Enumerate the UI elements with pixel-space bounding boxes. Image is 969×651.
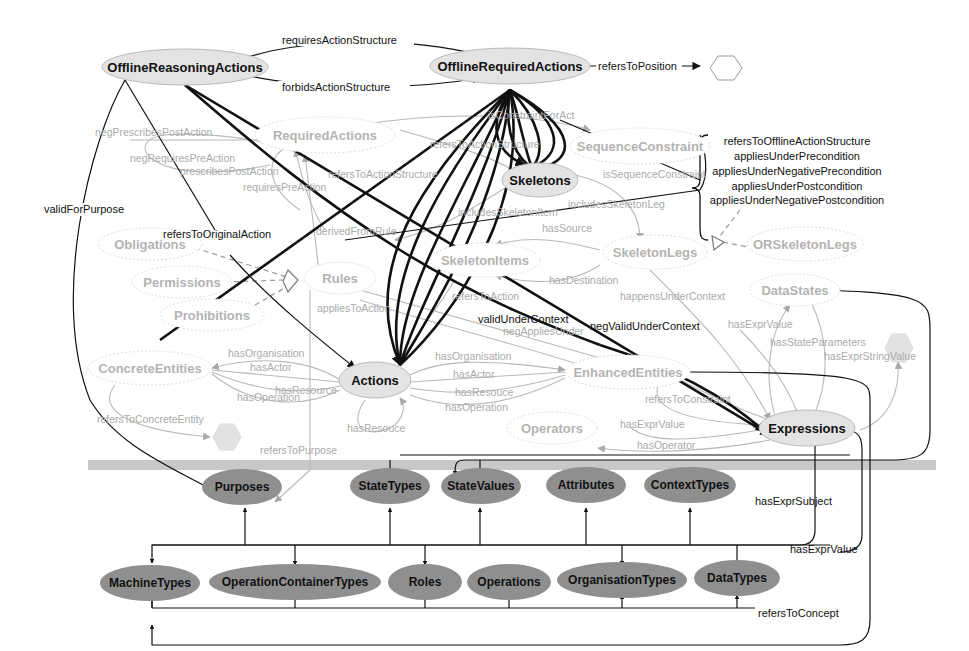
node-offline-required-actions[interactable]: OfflineRequiredActions bbox=[430, 48, 590, 84]
svg-text:OfflineRequiredActions: OfflineRequiredActions bbox=[437, 59, 582, 74]
label-refers-to-concept: refersToConcept bbox=[758, 607, 839, 619]
svg-text:appliesUnderNegativePostcondit: appliesUnderNegativePostcondition bbox=[710, 194, 884, 206]
node-purposes[interactable]: Purposes bbox=[202, 469, 282, 505]
svg-text:hasOperation: hasOperation bbox=[445, 401, 508, 413]
svg-text:refersToConstraint: refersToConstraint bbox=[645, 393, 731, 405]
node-permissions[interactable]: Permissions bbox=[132, 266, 232, 298]
node-data-states[interactable]: DataStates bbox=[750, 274, 840, 306]
svg-text:requiresPreAction: requiresPreAction bbox=[243, 181, 327, 193]
svg-text:negPrescribesPostAction: negPrescribesPostAction bbox=[95, 126, 212, 138]
svg-text:refersToOfflineActionStructure: refersToOfflineActionStructure bbox=[724, 135, 871, 147]
node-skeletons[interactable]: Skeletons bbox=[502, 163, 578, 197]
svg-text:Purposes: Purposes bbox=[215, 480, 270, 494]
node-state-types[interactable]: StateTypes bbox=[350, 468, 430, 504]
label-refers-to-position: refersToPosition bbox=[598, 60, 677, 72]
node-offline-reasoning-actions[interactable]: OfflineReasoningActions bbox=[102, 49, 268, 85]
svg-text:MachineTypes: MachineTypes bbox=[109, 576, 191, 590]
literal-hexagon bbox=[710, 56, 742, 80]
svg-text:hasOrganisation: hasOrganisation bbox=[228, 347, 305, 359]
ontology-diagram: OfflineReasoningActions OfflineRequiredA… bbox=[0, 0, 969, 651]
node-or-skeleton-legs[interactable]: ORSkeletonLegs bbox=[747, 227, 863, 261]
node-enhanced-entities[interactable]: EnhancedEntities bbox=[566, 355, 690, 389]
svg-text:hasExprValue: hasExprValue bbox=[620, 418, 685, 430]
svg-text:Roles: Roles bbox=[409, 575, 442, 589]
svg-text:StateTypes: StateTypes bbox=[358, 479, 421, 493]
node-prohibitions[interactable]: Prohibitions bbox=[160, 299, 264, 331]
node-sequence-constraint[interactable]: SequenceConstraint bbox=[570, 128, 710, 164]
node-actions[interactable]: Actions bbox=[339, 362, 411, 398]
svg-text:DataStates: DataStates bbox=[761, 283, 828, 298]
node-context-types[interactable]: ContextTypes bbox=[644, 467, 736, 503]
svg-text:hasResouce: hasResouce bbox=[455, 386, 514, 398]
svg-text:hasOperation: hasOperation bbox=[237, 391, 300, 403]
svg-text:OrganisationTypes: OrganisationTypes bbox=[568, 573, 676, 587]
svg-text:ConcreteEntities: ConcreteEntities bbox=[98, 361, 201, 376]
svg-text:Actions: Actions bbox=[351, 373, 399, 388]
svg-text:includesSkeletonLeg: includesSkeletonLeg bbox=[568, 198, 665, 210]
svg-text:Operations: Operations bbox=[477, 575, 541, 589]
node-required-actions[interactable]: RequiredActions bbox=[255, 117, 395, 153]
node-data-types[interactable]: DataTypes bbox=[694, 560, 780, 596]
label-neg-valid-under-context: negValidUnderContext bbox=[590, 320, 700, 332]
svg-text:Attributes: Attributes bbox=[558, 478, 615, 492]
svg-text:refersToPurpose: refersToPurpose bbox=[260, 444, 337, 456]
svg-text:includesSkeletonItem: includesSkeletonItem bbox=[458, 206, 558, 218]
svg-text:hasExprValue: hasExprValue bbox=[728, 318, 793, 330]
node-skeleton-legs[interactable]: SkeletonLegs bbox=[603, 235, 707, 269]
node-operations[interactable]: Operations bbox=[467, 564, 551, 600]
svg-text:derivedFromRule: derivedFromRule bbox=[316, 225, 397, 237]
node-rules[interactable]: Rules bbox=[304, 262, 376, 294]
svg-text:appliesUnderNegativePreconditi: appliesUnderNegativePrecondition bbox=[712, 165, 881, 177]
node-skeleton-items[interactable]: SkeletonItems bbox=[430, 243, 540, 277]
svg-text:Operators: Operators bbox=[521, 421, 583, 436]
svg-text:isConstraintForAct: isConstraintForAct bbox=[488, 109, 574, 121]
node-machine-types[interactable]: MachineTypes bbox=[100, 565, 200, 601]
svg-text:prescribesPostAction: prescribesPostAction bbox=[180, 165, 279, 177]
svg-text:SkeletonItems: SkeletonItems bbox=[441, 253, 529, 268]
svg-text:refersToConcreteEntity: refersToConcreteEntity bbox=[97, 413, 205, 425]
svg-text:SkeletonLegs: SkeletonLegs bbox=[613, 245, 698, 260]
svg-text:OperationContainerTypes: OperationContainerTypes bbox=[222, 575, 369, 589]
svg-text:StateValues: StateValues bbox=[447, 479, 515, 493]
node-concrete-entities[interactable]: ConcreteEntities bbox=[88, 351, 212, 385]
svg-text:negRequiresPreAction: negRequiresPreAction bbox=[130, 152, 235, 164]
node-organisation-types[interactable]: OrganisationTypes bbox=[557, 562, 687, 598]
svg-text:Skeletons: Skeletons bbox=[509, 173, 570, 188]
svg-text:hasActor: hasActor bbox=[453, 368, 495, 380]
svg-text:isSequenceConstraint: isSequenceConstraint bbox=[603, 168, 706, 180]
label-has-expr-value: hasExprValue bbox=[790, 543, 858, 555]
svg-text:appliesToAction: appliesToAction bbox=[317, 302, 391, 314]
svg-text:Prohibitions: Prohibitions bbox=[174, 308, 250, 323]
svg-text:negAppliesUnder: negAppliesUnder bbox=[503, 325, 584, 337]
svg-text:Rules: Rules bbox=[322, 271, 357, 286]
node-expressions[interactable]: Expressions bbox=[759, 410, 855, 446]
label-refers-to-original-action: refersToOriginalAction bbox=[163, 228, 271, 240]
label-has-expr-subject: hasExprSubject bbox=[755, 495, 832, 507]
node-operation-container-types[interactable]: OperationContainerTypes bbox=[209, 564, 381, 600]
svg-text:hasResouce: hasResouce bbox=[347, 422, 406, 434]
svg-text:refersToAction: refersToAction bbox=[452, 290, 519, 302]
svg-text:hasActor: hasActor bbox=[250, 361, 292, 373]
svg-text:hasStateParameters: hasStateParameters bbox=[770, 336, 866, 348]
brace-labels: refersToOfflineActionStructure appliesUn… bbox=[710, 135, 884, 206]
node-attributes[interactable]: Attributes bbox=[546, 467, 626, 503]
svg-text:ContextTypes: ContextTypes bbox=[651, 478, 730, 492]
svg-text:EnhancedEntities: EnhancedEntities bbox=[573, 365, 682, 380]
node-state-values[interactable]: StateValues bbox=[441, 468, 521, 504]
svg-text:hasDestination: hasDestination bbox=[549, 274, 619, 286]
label-valid-under-context: validUnderContext bbox=[478, 313, 569, 325]
svg-text:OfflineReasoningActions: OfflineReasoningActions bbox=[107, 60, 262, 75]
label-requires-action-structure: requiresActionStructure bbox=[282, 34, 397, 46]
svg-text:refersToActionStructure: refersToActionStructure bbox=[430, 138, 540, 150]
layer-separator bbox=[88, 460, 936, 470]
svg-text:SequenceConstraint: SequenceConstraint bbox=[577, 139, 704, 154]
svg-text:Permissions: Permissions bbox=[143, 275, 220, 290]
svg-text:happensUnderContext: happensUnderContext bbox=[620, 290, 725, 302]
svg-text:hasOperator: hasOperator bbox=[637, 439, 696, 451]
node-operators[interactable]: Operators bbox=[507, 412, 597, 444]
svg-text:appliesUnderPostcondition: appliesUnderPostcondition bbox=[732, 180, 863, 192]
svg-text:ORSkeletonLegs: ORSkeletonLegs bbox=[753, 237, 857, 252]
svg-text:Expressions: Expressions bbox=[768, 421, 845, 436]
label-valid-for-purpose: validForPurpose bbox=[44, 203, 124, 215]
node-roles[interactable]: Roles bbox=[388, 564, 462, 600]
